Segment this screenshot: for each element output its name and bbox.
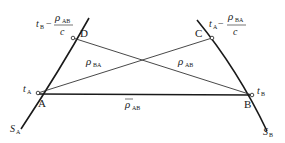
s-a-main: S: [10, 123, 15, 134]
point-b-marker: [250, 93, 254, 97]
point-a-label: A: [38, 97, 46, 109]
time-label-a: t A: [23, 83, 32, 95]
expr-d-den: c: [60, 26, 65, 37]
expr-d-minus: −: [46, 18, 52, 29]
s-a-sub: A: [16, 129, 21, 135]
point-b-label: B: [244, 98, 251, 110]
label-rho-ab-bar: ρ AB: [124, 98, 140, 111]
expr-c-minus: −: [218, 18, 224, 29]
time-label-b: t B: [257, 85, 265, 97]
point-c-label: C: [195, 27, 202, 39]
point-d-marker: [71, 36, 75, 40]
label-rho-ba: ρ BA: [85, 55, 102, 68]
s-b-main: S: [263, 126, 268, 137]
point-a-marker: [36, 91, 40, 95]
point-d-label: D: [80, 27, 88, 39]
expr-c: t A − ρ BA c: [209, 10, 246, 37]
curve-s-a: [21, 18, 89, 129]
expr-d: t B − ρ AB c: [36, 11, 73, 37]
point-c-marker: [210, 36, 214, 40]
segment-a-b: [38, 94, 252, 95]
rho-ba-sub: BA: [93, 62, 102, 68]
time-b-sub: B: [261, 91, 265, 97]
label-s-b: S B: [263, 126, 273, 138]
expr-c-rho: ρ: [227, 10, 233, 22]
expr-c-t: t: [209, 18, 212, 29]
expr-d-t-sub: B: [40, 24, 44, 30]
time-a-sub: A: [27, 89, 32, 95]
expr-d-rho-sub: AB: [62, 18, 70, 24]
rho-ab-sub: AB: [185, 62, 193, 68]
time-b-main: t: [257, 85, 260, 96]
rho-ab-main: ρ: [177, 55, 183, 67]
label-s-a: S A: [10, 123, 21, 135]
expr-d-rho: ρ: [54, 11, 60, 23]
diagram-canvas: D C A B t A t B t B − ρ AB c t A − ρ BA …: [0, 0, 285, 143]
expr-d-t: t: [36, 18, 39, 29]
label-rho-ab: ρ AB: [177, 55, 193, 68]
rho-ab-bar-sub: AB: [132, 105, 140, 111]
s-b-sub: B: [269, 132, 273, 138]
time-a-main: t: [23, 83, 26, 94]
expr-c-den: c: [233, 26, 238, 37]
rho-ab-bar-main: ρ: [124, 98, 130, 110]
rho-ba-main: ρ: [85, 55, 91, 67]
expr-c-rho-sub: BA: [235, 17, 244, 23]
curve-s-b: [197, 20, 267, 131]
